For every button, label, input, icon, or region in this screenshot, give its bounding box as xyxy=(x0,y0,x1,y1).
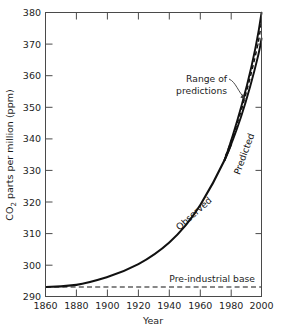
svg-text:Observed: Observed xyxy=(174,195,214,233)
x-tick-labels: 1860 1880 1900 1920 1940 1960 1980 2000 xyxy=(33,300,273,311)
x-tick-label: 1980 xyxy=(219,300,243,311)
y-tick-label: 370 xyxy=(23,39,41,50)
x-tick-label: 1940 xyxy=(157,300,181,311)
y-tick-label: 360 xyxy=(23,70,41,81)
range-of-predictions-line1: Range of xyxy=(186,73,228,84)
x-tick-label: 1960 xyxy=(188,300,212,311)
x-axis-title: Year xyxy=(142,315,163,326)
x-tick-marks-bottom xyxy=(46,290,262,297)
x-tick-marks-top xyxy=(76,13,231,20)
y-tick-label: 330 xyxy=(23,165,41,176)
observed-curve xyxy=(46,144,231,287)
x-tick-label: 1860 xyxy=(33,300,57,311)
range-of-predictions-line2: predictions xyxy=(176,85,227,96)
y-axis-title: CO2 parts per million (ppm) xyxy=(4,89,18,220)
range-of-predictions-annotation: Range of predictions xyxy=(176,73,245,99)
y-tick-label: 310 xyxy=(23,228,41,239)
observed-label: Observed xyxy=(174,195,214,233)
svg-text:CO2 parts per million (ppm): CO2 parts per million (ppm) xyxy=(4,89,18,220)
pre-industrial-base-label: Pre-industrial base xyxy=(169,273,255,284)
y-tick-label: 350 xyxy=(23,102,41,113)
y-tick-label: 340 xyxy=(23,133,41,144)
x-tick-label: 2000 xyxy=(249,300,273,311)
y-tick-marks-right xyxy=(256,44,262,234)
y-tick-labels: 380 370 360 350 340 330 320 310 300 290 xyxy=(23,7,41,302)
y-tick-label: 300 xyxy=(23,260,41,271)
y-tick-label: 320 xyxy=(23,197,41,208)
y-axis-title-co: CO xyxy=(4,207,15,221)
co2-concentration-chart: 380 370 360 350 340 330 320 310 300 290 … xyxy=(0,0,281,336)
y-tick-label: 380 xyxy=(23,7,41,18)
x-tick-label: 1900 xyxy=(95,300,119,311)
x-tick-label: 1920 xyxy=(126,300,150,311)
y-tick-marks xyxy=(46,13,53,297)
x-tick-label: 1880 xyxy=(64,300,88,311)
chart-canvas: 380 370 360 350 340 330 320 310 300 290 … xyxy=(0,0,281,336)
y-axis-title-rest: parts per million (ppm) xyxy=(4,89,15,202)
